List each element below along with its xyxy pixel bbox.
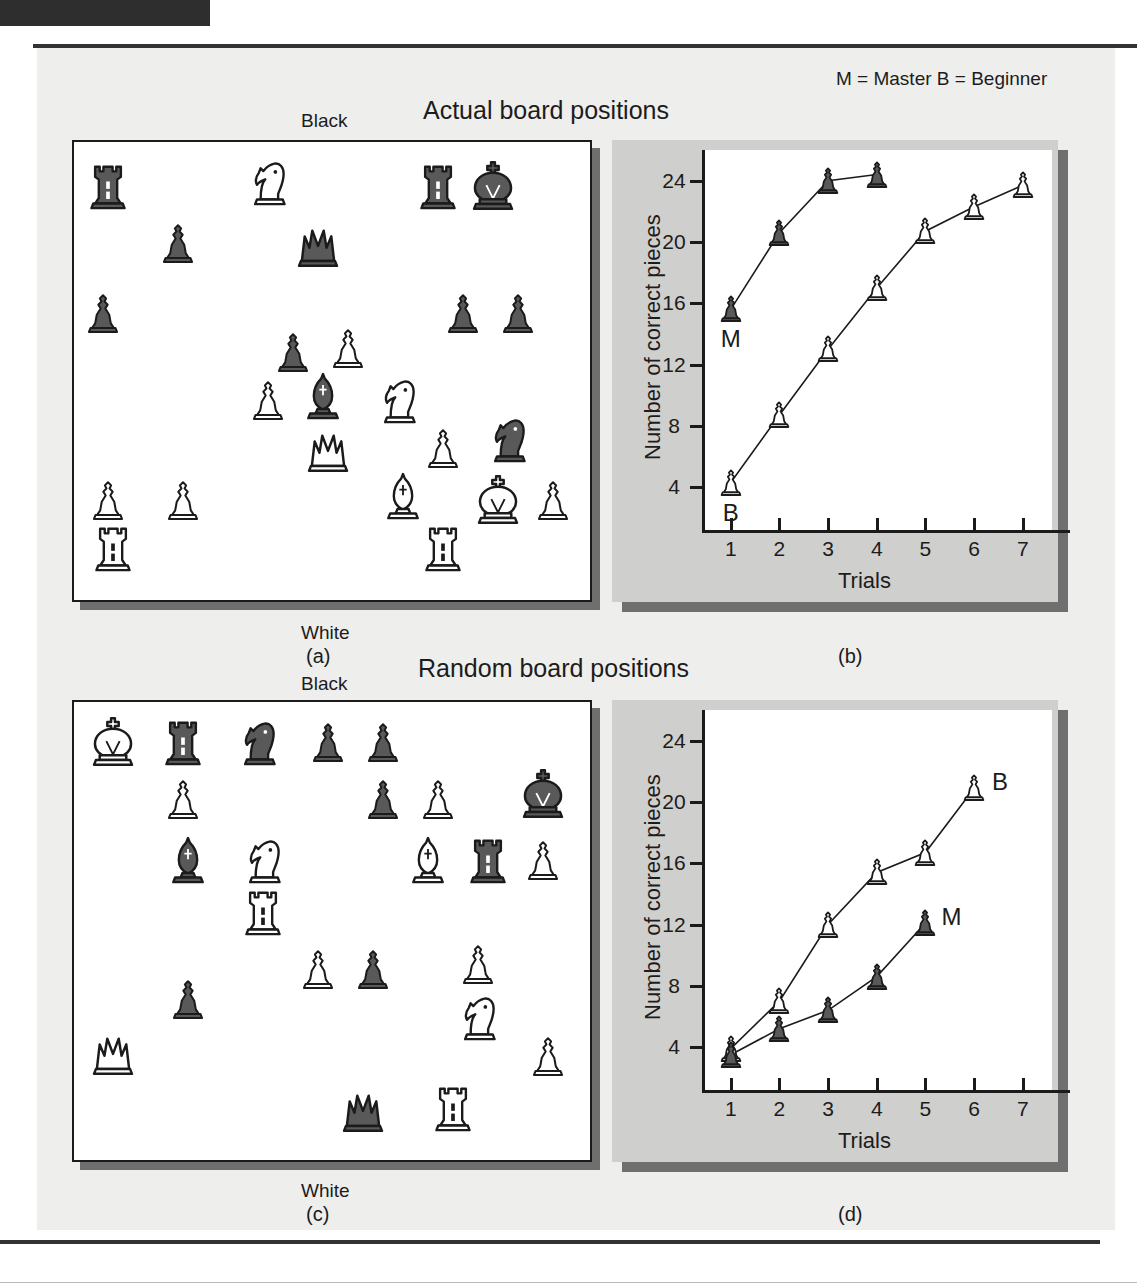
chess-board-actual (72, 140, 592, 602)
board-a-black-label: Black (301, 110, 347, 132)
chess-piece-black-pawn (445, 292, 481, 336)
chess-piece-black-king (471, 161, 515, 214)
chess-piece-black-knight (237, 717, 279, 769)
chess-piece-white-rook (422, 523, 464, 575)
chess-piece-black-pawn (310, 721, 346, 765)
data-point-marker-b (962, 192, 986, 222)
bottom-horizontal-rule (0, 1240, 1100, 1244)
chess-piece-white-pawn (425, 427, 461, 471)
panel-letter-b: (b) (838, 645, 862, 668)
panel-letter-c: (c) (306, 1203, 329, 1226)
chess-piece-white-pawn (525, 839, 561, 883)
chess-piece-white-queen (91, 1026, 135, 1079)
data-point-marker-m (767, 218, 791, 248)
chess-piece-black-pawn (500, 292, 536, 336)
chess-piece-white-king (476, 475, 520, 528)
data-point-marker-b (719, 468, 743, 498)
chess-piece-black-pawn (160, 222, 196, 266)
chart-random-board-positions: 48121620241234567TrialsNumber of correct… (612, 700, 1058, 1162)
panel-letter-d: (d) (838, 1203, 862, 1226)
chess-piece-white-pawn (330, 327, 366, 371)
data-point-marker-b (962, 773, 986, 803)
chess-piece-white-pawn (530, 1035, 566, 1079)
chess-piece-black-queen (341, 1083, 385, 1136)
chess-piece-black-king (521, 769, 565, 822)
chess-piece-white-pawn (300, 948, 336, 992)
board-a-white-label: White (301, 622, 350, 644)
data-point-marker-m (913, 908, 937, 938)
chess-piece-white-pawn (165, 778, 201, 822)
chess-piece-white-rook (92, 523, 134, 575)
page-corner-bar (0, 0, 210, 26)
chess-piece-black-bishop (302, 371, 344, 423)
board-surface (72, 700, 592, 1162)
panel-letter-a: (a) (306, 645, 330, 668)
chess-piece-black-pawn (355, 948, 391, 992)
board-c-white-label: White (301, 1180, 350, 1202)
series-label-b: B (723, 499, 739, 527)
chess-piece-black-bishop (167, 835, 209, 887)
chess-piece-white-queen (306, 422, 350, 475)
chess-piece-white-knight (457, 992, 499, 1044)
data-point-marker-b (767, 400, 791, 430)
chess-board-random (72, 700, 592, 1162)
chess-piece-black-pawn (170, 978, 206, 1022)
data-point-marker-m (719, 294, 743, 324)
heading-actual-board-positions: Actual board positions (423, 96, 669, 125)
data-point-marker-b (767, 986, 791, 1016)
bottom-thin-rule (0, 1282, 1137, 1283)
data-point-marker-b (816, 334, 840, 364)
chess-piece-white-pawn (165, 479, 201, 523)
series-lines (612, 140, 1058, 602)
board-surface (72, 140, 592, 602)
chess-piece-white-pawn (460, 943, 496, 987)
chess-piece-black-pawn (275, 331, 311, 375)
series-label-m: M (721, 325, 741, 353)
chess-piece-black-rook (87, 161, 129, 213)
chess-piece-black-rook (417, 161, 459, 213)
chess-piece-white-knight (377, 375, 419, 427)
chart-actual-board-positions: 48121620241234567TrialsNumber of correct… (612, 140, 1058, 602)
heading-random-board-positions: Random board positions (418, 654, 689, 683)
data-point-marker-m (865, 962, 889, 992)
data-point-marker-m (767, 1014, 791, 1044)
data-point-marker-b (913, 838, 937, 868)
data-point-marker-b (1011, 170, 1035, 200)
data-point-marker-b (865, 273, 889, 303)
series-label-b: B (992, 768, 1008, 796)
data-point-marker-b (816, 910, 840, 940)
chess-piece-black-pawn (85, 292, 121, 336)
chess-piece-white-pawn (250, 379, 286, 423)
chess-piece-white-knight (247, 157, 289, 209)
chess-piece-white-rook (432, 1083, 474, 1135)
chess-piece-white-king (91, 716, 135, 769)
chess-piece-white-pawn (535, 479, 571, 523)
chess-piece-black-pawn (365, 778, 401, 822)
chess-piece-black-knight (487, 414, 529, 466)
data-point-marker-m (865, 160, 889, 190)
series-label-m: M (941, 903, 961, 931)
data-point-marker-b (865, 857, 889, 887)
legend-note: M = Master B = Beginner (836, 68, 1047, 90)
chess-piece-white-bishop (382, 471, 424, 523)
chess-piece-black-queen (296, 217, 340, 270)
chess-piece-white-rook (242, 887, 284, 939)
chess-piece-white-knight (242, 835, 284, 887)
data-point-marker-b (913, 216, 937, 246)
chess-piece-black-rook (467, 835, 509, 887)
data-point-marker-m (816, 166, 840, 196)
chess-piece-white-bishop (407, 835, 449, 887)
chess-piece-white-pawn (420, 778, 456, 822)
chess-piece-black-pawn (365, 721, 401, 765)
board-c-black-label: Black (301, 673, 347, 695)
chess-piece-white-pawn (90, 479, 126, 523)
data-point-marker-m (816, 995, 840, 1025)
data-point-marker-m (719, 1040, 743, 1070)
chess-piece-black-rook (162, 717, 204, 769)
